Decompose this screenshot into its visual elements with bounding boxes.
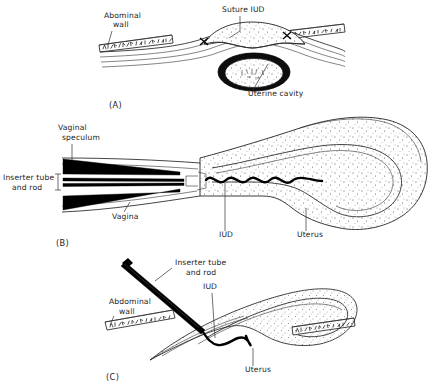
vaginal-speculum-label-line1: Vaginal [58, 123, 87, 132]
panel-letter-c: (C) [106, 372, 119, 382]
abdominal-wall-label-line2: wall [113, 20, 129, 29]
iud-label-b: IUD [219, 230, 233, 239]
vagina-label: Vagina [112, 212, 139, 221]
uterine-cavity-label: Uterine cavity [248, 89, 304, 98]
iud-label-c: IUD [203, 282, 217, 291]
uterus-label-b: Uterus [297, 230, 323, 239]
abdominal-wall-label-line1: Abominal [104, 11, 141, 20]
inserter-tube-label-line2: and rod [12, 183, 42, 192]
panel-letter-b: (B) [56, 238, 69, 248]
abdominal-wall-label-c-line2: wall [119, 307, 135, 316]
panel-letter-a: (A) [109, 100, 122, 110]
suture-iud-label: Suture IUD [222, 5, 265, 14]
abdominal-wall-label-c-line1: Abdominal [109, 297, 151, 306]
uterine-cavity-a [218, 53, 290, 91]
uterus-label-c: Uterus [245, 365, 271, 374]
iud-insertion-figure: Abominal wall Suture IUD Uterine cavity … [0, 0, 429, 388]
inserter-tube-label-c-line2: and rod [186, 268, 216, 277]
inserter-tube-label-c-line1: Inserter tube [175, 258, 226, 267]
inserter-tube-label-line1: Inserter tube [3, 173, 54, 182]
vaginal-speculum-label-line2: speculum [62, 133, 100, 142]
